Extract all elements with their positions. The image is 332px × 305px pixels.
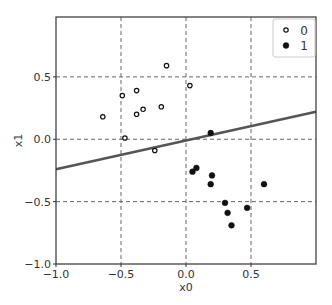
filled-circle-marker: [261, 181, 267, 187]
legend-label: 0: [300, 24, 308, 38]
y-tick-label: −0.5: [24, 196, 51, 209]
legend-open-circle-icon: [284, 28, 288, 32]
filled-circle-marker: [229, 222, 235, 228]
legend-label: 1: [300, 39, 308, 53]
filled-circle-marker: [208, 181, 214, 187]
filled-circle-marker: [208, 130, 214, 136]
y-tick-label: 0.5: [34, 71, 52, 84]
filled-circle-marker: [244, 205, 250, 211]
legend-box: [273, 19, 315, 57]
y-axis-label: x1: [12, 134, 25, 148]
scatter-chart: −1.0−0.50.00.5 −1.0−0.50.00.5 x0 x1 01: [0, 0, 332, 305]
y-tick-label: −1.0: [24, 258, 51, 271]
data-points: [101, 63, 267, 228]
open-circle-marker: [188, 83, 192, 87]
open-circle-marker: [120, 93, 124, 97]
open-circle-marker: [134, 112, 138, 116]
legend-filled-circle-icon: [283, 43, 289, 49]
filled-circle-marker: [222, 200, 228, 206]
x-axis-ticks: −1.0−0.50.00.5: [43, 264, 260, 281]
legend: 01: [273, 19, 315, 57]
series-1: [190, 130, 267, 228]
filled-circle-marker: [209, 173, 215, 179]
open-circle-marker: [141, 107, 145, 111]
filled-circle-marker: [194, 165, 200, 171]
open-circle-marker: [134, 88, 138, 92]
open-circle-marker: [101, 115, 105, 119]
open-circle-marker: [164, 63, 168, 67]
y-tick-label: 0.0: [34, 133, 52, 146]
open-circle-marker: [153, 148, 157, 152]
x-tick-label: −0.5: [108, 268, 135, 281]
y-axis-ticks: −1.0−0.50.00.5: [24, 71, 56, 271]
filled-circle-marker: [225, 210, 231, 216]
x-axis-label: x0: [179, 281, 193, 294]
x-tick-label: 0.0: [177, 268, 195, 281]
open-circle-marker: [123, 136, 127, 140]
open-circle-marker: [159, 105, 163, 109]
x-tick-label: 0.5: [242, 268, 260, 281]
